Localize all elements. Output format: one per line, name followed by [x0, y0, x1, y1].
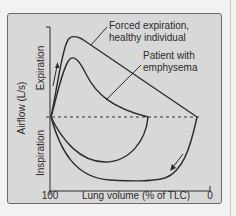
x-axis-left-tick-label: 100: [42, 190, 59, 201]
y-axis-lower-label: Inspiration: [35, 130, 46, 176]
emphysema-label-line1: Patient with: [143, 50, 195, 61]
x-axis-title: Lung volume (% of TLC): [82, 190, 190, 201]
healthy-label-line1: Forced expiration,: [109, 20, 189, 31]
emphysema-inspiration-curve: [51, 117, 148, 162]
flow-volume-diagram: Forced expiration, healthy individual Pa…: [0, 0, 236, 216]
healthy-expiration-curve: [51, 37, 197, 118]
y-axis-upper-label: Expiration: [35, 46, 46, 90]
healthy-label-line2: healthy individual: [109, 32, 186, 43]
y-axis-title: Airflow (L/s): [16, 82, 27, 135]
emphysema-leader-line: [107, 65, 141, 99]
inspiration-direction-arrow-icon: [170, 154, 183, 171]
emphysema-label-line2: emphysema: [143, 62, 198, 73]
healthy-leader-line: [91, 27, 107, 45]
x-axis-right-tick-label: 0: [207, 190, 213, 201]
emphysema-expiration-curve: [51, 58, 148, 117]
